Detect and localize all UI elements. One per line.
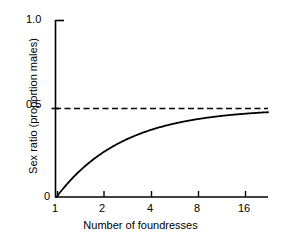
x-tick-label-1: 1 (52, 203, 58, 214)
x-tick-label-4: 4 (147, 203, 153, 214)
x-tick-label-2: 2 (99, 203, 105, 214)
y-axis-title: Sex ratio (proportion males) (27, 11, 39, 201)
sex-ratio-curve (57, 112, 269, 197)
x-tick-label-8: 8 (194, 203, 200, 214)
chart-figure: 1.0 0.5 0 1 2 4 8 16 Number of foundress… (0, 0, 281, 241)
x-axis-title: Number of foundresses (0, 219, 281, 231)
y-tick-label-0: 0 (44, 191, 50, 202)
x-tick-label-16: 16 (238, 203, 250, 214)
